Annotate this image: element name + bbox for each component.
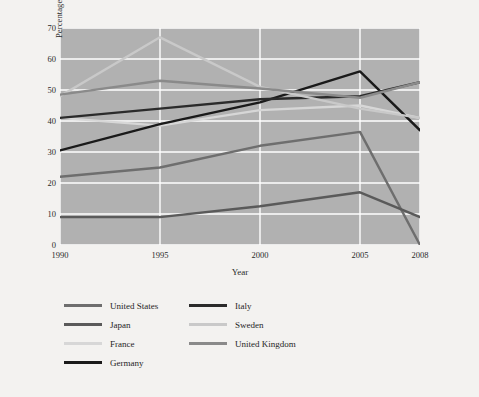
- x-tick-label: 2008: [412, 251, 429, 260]
- legend-item[interactable]: Japan: [64, 315, 189, 334]
- legend-label: Germany: [110, 358, 144, 368]
- legend-item[interactable]: United Kingdom: [189, 334, 359, 353]
- legend-color-swatch: [189, 304, 227, 308]
- legend-column-left: United StatesJapanFranceGermany: [64, 296, 189, 372]
- x-tick-label: 1995: [152, 251, 169, 260]
- y-tick-label: 0: [52, 241, 56, 250]
- legend-color-swatch: [64, 304, 102, 308]
- y-tick-label: 30: [48, 148, 57, 157]
- y-tick-label: 50: [48, 86, 57, 95]
- x-axis-title: Year: [232, 267, 249, 277]
- legend-label: Italy: [235, 301, 252, 311]
- series-line-united-states: [60, 132, 420, 245]
- legend-label: United States: [110, 301, 158, 311]
- y-tick-label: 10: [48, 210, 57, 219]
- chart-legend: United StatesJapanFranceGermany ItalySwe…: [64, 296, 404, 372]
- legend-column-right: ItalySwedenUnited Kingdom: [189, 296, 359, 372]
- legend-item[interactable]: United States: [64, 296, 189, 315]
- y-tick-label: 70: [48, 24, 57, 33]
- chart-canvas: [60, 28, 420, 245]
- y-tick-label: 60: [48, 55, 57, 64]
- x-tick-label: 2005: [352, 251, 369, 260]
- y-tick-label: 40: [48, 117, 57, 126]
- legend-item[interactable]: Sweden: [189, 315, 359, 334]
- legend-label: France: [110, 339, 135, 349]
- legend-item[interactable]: France: [64, 334, 189, 353]
- legend-item[interactable]: Germany: [64, 353, 189, 372]
- legend-color-swatch: [189, 342, 227, 346]
- divorce-rate-line-chart-figure: Percentage of marriages that end in divo…: [0, 0, 479, 397]
- legend-color-swatch: [64, 323, 102, 327]
- legend-color-swatch: [64, 342, 102, 346]
- legend-label: Sweden: [235, 320, 264, 330]
- legend-item[interactable]: Italy: [189, 296, 359, 315]
- series-line-germany: [60, 71, 420, 150]
- x-tick-label: 1990: [52, 251, 69, 260]
- legend-label: United Kingdom: [235, 339, 296, 349]
- plot-area: Percentage of marriages that end in divo…: [60, 28, 420, 245]
- x-tick-label: 2000: [252, 251, 269, 260]
- legend-color-swatch: [64, 361, 102, 365]
- legend-label: Japan: [110, 320, 131, 330]
- legend-color-swatch: [189, 323, 227, 327]
- y-tick-label: 20: [48, 179, 57, 188]
